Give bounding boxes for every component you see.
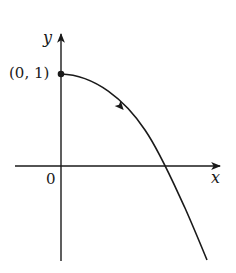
start-point-dot <box>58 71 65 78</box>
x-axis-label: x <box>211 170 220 186</box>
function-graph <box>0 0 236 273</box>
point-label: (0, 1) <box>9 66 49 81</box>
direction-arrow-icon <box>115 101 127 113</box>
function-curve <box>61 74 207 260</box>
origin-label: 0 <box>46 172 56 187</box>
y-axis-label: y <box>43 30 52 46</box>
